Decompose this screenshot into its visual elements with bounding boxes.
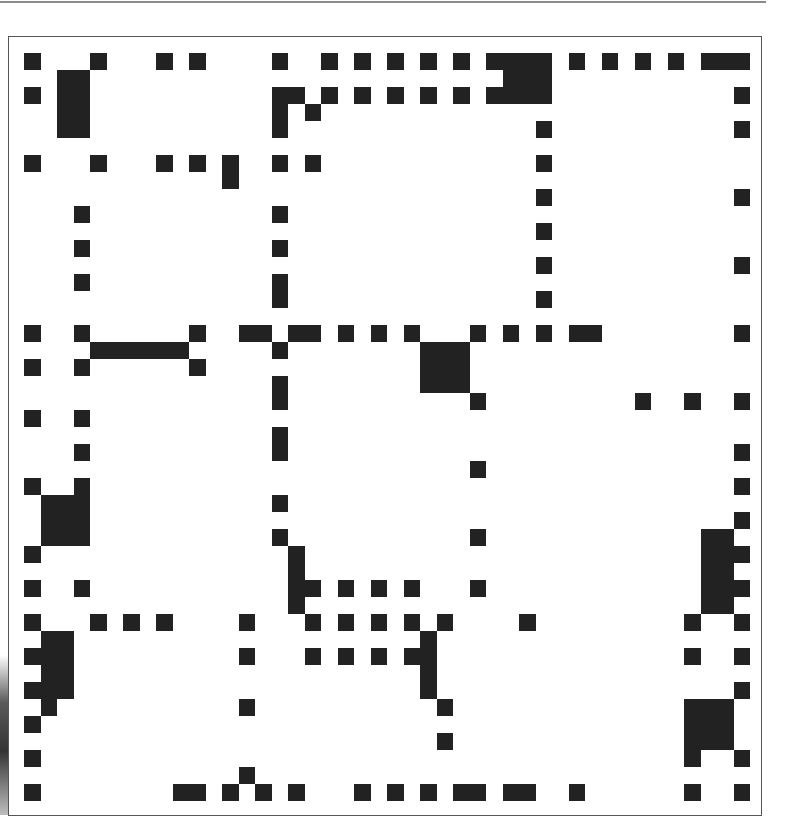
- matrix-nonzero-cell: [734, 512, 750, 529]
- matrix-nonzero-cell: [239, 699, 255, 716]
- matrix-nonzero-cell: [24, 784, 41, 801]
- matrix-nonzero-cell: [519, 784, 536, 801]
- matrix-nonzero-cell: [371, 648, 387, 665]
- matrix-nonzero-cell: [420, 784, 437, 801]
- matrix-nonzero-cell: [635, 53, 651, 70]
- matrix-nonzero-cell: [74, 512, 90, 529]
- matrix-nonzero-cell: [734, 614, 750, 631]
- matrix-nonzero-cell: [404, 614, 420, 631]
- matrix-nonzero-cell: [140, 342, 156, 359]
- sparsity-pattern: [0, 0, 786, 838]
- matrix-nonzero-cell: [222, 155, 239, 172]
- matrix-nonzero-cell: [272, 291, 288, 308]
- matrix-nonzero-cell: [635, 393, 651, 410]
- matrix-nonzero-cell: [536, 121, 552, 138]
- matrix-nonzero-cell: [519, 614, 536, 631]
- matrix-nonzero-cell: [57, 121, 74, 138]
- matrix-nonzero-cell: [420, 53, 437, 70]
- matrix-nonzero-cell: [272, 342, 288, 359]
- matrix-nonzero-cell: [437, 359, 453, 376]
- matrix-nonzero-cell: [41, 495, 57, 512]
- matrix-nonzero-cell: [189, 359, 206, 376]
- matrix-nonzero-cell: [173, 784, 189, 801]
- matrix-nonzero-cell: [470, 325, 486, 342]
- matrix-nonzero-cell: [734, 53, 750, 70]
- matrix-nonzero-cell: [24, 580, 41, 597]
- matrix-nonzero-cell: [734, 257, 750, 274]
- matrix-nonzero-cell: [57, 529, 74, 546]
- matrix-nonzero-cell: [453, 784, 470, 801]
- matrix-nonzero-cell: [420, 648, 437, 665]
- matrix-nonzero-cell: [156, 155, 173, 172]
- matrix-nonzero-cell: [701, 529, 717, 546]
- matrix-nonzero-cell: [569, 53, 585, 70]
- matrix-nonzero-cell: [239, 767, 255, 784]
- matrix-nonzero-cell: [420, 665, 437, 682]
- matrix-nonzero-cell: [24, 546, 41, 563]
- matrix-nonzero-cell: [503, 325, 519, 342]
- matrix-nonzero-cell: [24, 614, 41, 631]
- matrix-nonzero-cell: [74, 121, 90, 138]
- matrix-nonzero-cell: [57, 495, 74, 512]
- matrix-nonzero-cell: [189, 784, 206, 801]
- matrix-nonzero-cell: [717, 546, 734, 563]
- matrix-nonzero-cell: [734, 784, 750, 801]
- matrix-nonzero-cell: [222, 172, 239, 189]
- matrix-nonzero-cell: [503, 784, 519, 801]
- matrix-nonzero-cell: [519, 70, 536, 87]
- matrix-nonzero-cell: [239, 325, 255, 342]
- matrix-nonzero-cell: [602, 53, 618, 70]
- matrix-nonzero-cell: [57, 104, 74, 121]
- matrix-nonzero-cell: [288, 546, 305, 563]
- matrix-nonzero-cell: [734, 682, 750, 699]
- matrix-nonzero-cell: [387, 53, 404, 70]
- matrix-nonzero-cell: [684, 733, 701, 750]
- matrix-nonzero-cell: [437, 376, 453, 393]
- matrix-nonzero-cell: [74, 87, 90, 104]
- matrix-nonzero-cell: [41, 665, 57, 682]
- matrix-nonzero-cell: [734, 546, 750, 563]
- matrix-nonzero-cell: [272, 87, 288, 104]
- matrix-nonzero-cell: [536, 325, 552, 342]
- matrix-nonzero-cell: [585, 325, 602, 342]
- matrix-nonzero-cell: [734, 121, 750, 138]
- matrix-nonzero-cell: [420, 631, 437, 648]
- matrix-nonzero-cell: [74, 495, 90, 512]
- matrix-nonzero-cell: [536, 257, 552, 274]
- matrix-nonzero-cell: [470, 461, 486, 478]
- matrix-nonzero-cell: [470, 784, 486, 801]
- matrix-nonzero-cell: [272, 240, 288, 257]
- matrix-nonzero-cell: [272, 393, 288, 410]
- matrix-nonzero-cell: [272, 121, 288, 138]
- matrix-nonzero-cell: [305, 325, 321, 342]
- matrix-nonzero-cell: [734, 87, 750, 104]
- matrix-nonzero-cell: [420, 359, 437, 376]
- matrix-nonzero-cell: [503, 87, 519, 104]
- matrix-nonzero-cell: [486, 53, 503, 70]
- matrix-nonzero-cell: [123, 342, 140, 359]
- matrix-nonzero-cell: [222, 784, 239, 801]
- matrix-nonzero-cell: [74, 529, 90, 546]
- matrix-nonzero-cell: [74, 325, 90, 342]
- matrix-nonzero-cell: [272, 427, 288, 444]
- matrix-nonzero-cell: [74, 580, 90, 597]
- matrix-nonzero-cell: [420, 682, 437, 699]
- matrix-nonzero-cell: [305, 648, 321, 665]
- matrix-nonzero-cell: [41, 512, 57, 529]
- matrix-nonzero-cell: [420, 376, 437, 393]
- matrix-nonzero-cell: [470, 529, 486, 546]
- matrix-nonzero-cell: [24, 648, 41, 665]
- matrix-nonzero-cell: [734, 478, 750, 495]
- matrix-nonzero-cell: [24, 325, 41, 342]
- matrix-nonzero-cell: [354, 87, 371, 104]
- matrix-nonzero-cell: [24, 682, 41, 699]
- matrix-nonzero-cell: [239, 648, 255, 665]
- matrix-nonzero-cell: [371, 580, 387, 597]
- matrix-nonzero-cell: [74, 70, 90, 87]
- matrix-nonzero-cell: [338, 614, 354, 631]
- matrix-nonzero-cell: [288, 563, 305, 580]
- matrix-nonzero-cell: [503, 53, 519, 70]
- matrix-nonzero-cell: [701, 53, 717, 70]
- matrix-nonzero-cell: [470, 580, 486, 597]
- matrix-nonzero-cell: [41, 682, 57, 699]
